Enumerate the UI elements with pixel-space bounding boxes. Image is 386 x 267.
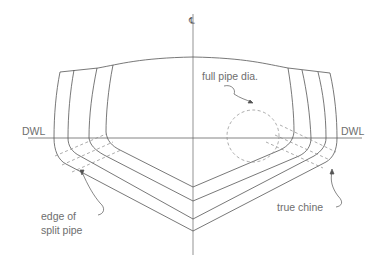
edge-split-arrowhead [80, 170, 84, 175]
full-pipe-arrowhead [248, 100, 253, 103]
left-bottom-3 [80, 156, 193, 219]
left-frame-3 [89, 68, 104, 155]
left-frame-1 [54, 72, 66, 164]
left-frame-4 [106, 65, 120, 150]
right-frame-3 [314, 72, 326, 156]
left-dash-3 [72, 150, 121, 172]
edge-split-label-1: edge of [41, 210, 76, 222]
right-dash-2 [275, 135, 330, 160]
full-pipe-circle [227, 110, 279, 162]
deck-line [60, 57, 330, 73]
true-chine-label: true chine [277, 201, 323, 213]
left-frame-2 [68, 70, 80, 156]
left-dash-1 [55, 134, 106, 156]
true-chine-leader [331, 172, 341, 207]
right-bottom-1 [193, 150, 280, 187]
true-chine-arrowhead [330, 169, 334, 174]
left-bottom-4 [66, 164, 193, 231]
right-frame-2 [299, 70, 311, 156]
right-frame-4 [326, 73, 337, 162]
full-pipe-label: full pipe dia. [202, 70, 258, 82]
right-bottom-2 [193, 156, 299, 201]
full-pipe-leader [224, 86, 252, 102]
dwl-label-right: DWL [341, 125, 364, 137]
hull-section-diagram: ℄ DWL DWL full pipe dia. edge of split p… [0, 0, 386, 267]
centerline-symbol: ℄ [189, 15, 195, 27]
right-dash-3 [266, 142, 323, 168]
edge-split-label-2: split pipe [41, 224, 82, 236]
dwl-label-left: DWL [22, 125, 45, 137]
